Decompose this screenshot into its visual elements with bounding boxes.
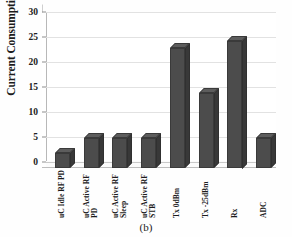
bar <box>199 93 214 168</box>
bar-front-face <box>84 138 99 168</box>
bar <box>112 138 127 168</box>
y-axis-tick-label: 20 <box>29 57 39 67</box>
x-axis-tick-label-line: uC Idle RF PD <box>58 166 66 218</box>
x-axis-tick-label: ADC <box>259 166 267 218</box>
x-axis-tick-label: uC Active RFPD <box>83 166 100 218</box>
x-axis-tick-label-line: Tx -25dBm <box>202 166 210 218</box>
bar-column <box>141 12 156 162</box>
bar-column <box>170 12 185 162</box>
bar <box>141 138 156 168</box>
bar-side-face <box>214 88 219 168</box>
bar-side-face <box>185 43 190 168</box>
bar-front-face <box>112 138 127 168</box>
bar-column <box>256 12 271 162</box>
y-axis-tick-label: 30 <box>29 7 39 17</box>
bar <box>84 138 99 168</box>
x-axis-label-slot: uC Active RFPD <box>84 166 99 218</box>
x-axis-label-slot: Rx <box>227 166 242 218</box>
bar-column <box>84 12 99 162</box>
bar-front-face <box>199 93 214 168</box>
figure-panel: Current Consumption (mA) 051015202530 uC… <box>0 0 292 237</box>
bar-column <box>112 12 127 162</box>
bar-front-face <box>256 138 271 168</box>
y-axis-tick-label: 5 <box>33 132 38 142</box>
bar-column <box>55 12 70 162</box>
bar-front-face <box>227 41 242 169</box>
figure-caption: (b) <box>0 221 292 233</box>
bar-column <box>227 12 242 162</box>
x-axis-label-slot: uC Idle RF PD <box>55 166 70 218</box>
bar-front-face <box>170 48 185 168</box>
bar-side-face <box>99 133 104 168</box>
x-axis-tick-label: uC Active RFSTB <box>140 166 157 218</box>
x-axis-label-slot: uC Active RFSTB <box>141 166 156 218</box>
bar-side-face <box>156 133 161 168</box>
y-axis-tick-label: 15 <box>29 82 39 92</box>
x-axis-tick-label-line: Rx <box>231 166 239 218</box>
bar-side-face <box>242 36 247 169</box>
bar-side-face <box>271 133 276 168</box>
y-axis-tick-label: 25 <box>29 32 39 42</box>
y-axis-title: Current Consumption (mA) <box>5 0 21 103</box>
bar-side-face <box>127 133 132 168</box>
bar <box>227 41 242 169</box>
x-axis-label-slot: uC Active RFSleep <box>112 166 127 218</box>
x-axis-labels: uC Idle RF PDuC Active RFPDuC Active RFS… <box>42 166 276 218</box>
x-axis-tick-label-line: Sleep <box>120 166 128 218</box>
x-axis-tick-label-line: STB <box>149 166 157 218</box>
bar <box>256 138 271 168</box>
x-axis-tick-label: uC Idle RF PD <box>58 166 66 218</box>
x-axis-tick-label: uC Active RFSleep <box>111 166 128 218</box>
y-axis-tick-label: 0 <box>33 157 38 167</box>
x-axis-label-slot: Tx 0dBm <box>170 166 185 218</box>
x-axis-tick-label: Rx <box>231 166 239 218</box>
x-axis-label-slot: ADC <box>256 166 271 218</box>
y-axis-tick-label: 10 <box>29 107 39 117</box>
x-axis-tick-label-line: ADC <box>259 166 267 218</box>
x-axis-tick-label-line: PD <box>91 166 99 218</box>
x-axis-tick-label-line: Tx 0dBm <box>173 166 181 218</box>
bar-column <box>199 12 214 162</box>
x-axis-tick-label: Tx 0dBm <box>173 166 181 218</box>
x-axis-label-slot: Tx -25dBm <box>199 166 214 218</box>
bar-series <box>46 12 276 162</box>
bar-front-face <box>141 138 156 168</box>
bar <box>170 48 185 168</box>
plot-area: 051015202530 <box>42 12 276 162</box>
x-axis-tick-label: Tx -25dBm <box>202 166 210 218</box>
